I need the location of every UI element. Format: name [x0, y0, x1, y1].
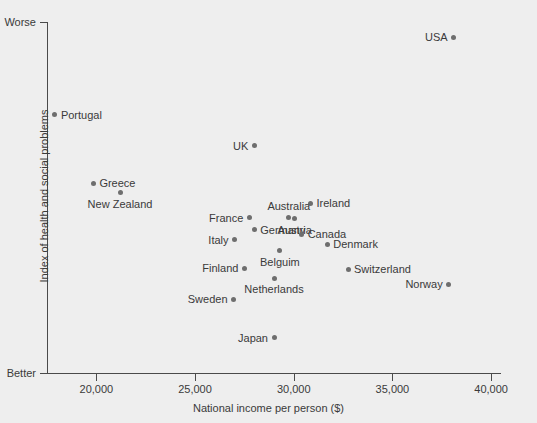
data-point-marker: [299, 232, 304, 237]
y-axis-tick: [40, 22, 47, 23]
data-point-marker: [277, 248, 282, 253]
data-point-label: Norway: [405, 279, 442, 290]
data-point-label: France: [209, 213, 243, 224]
data-point-marker: [231, 297, 236, 302]
data-point-label: New Zealand: [88, 199, 153, 210]
data-point-marker: [232, 237, 237, 242]
data-point-label: Australia: [267, 201, 310, 212]
x-axis-tick-label: 25,000: [178, 383, 212, 395]
data-point-marker: [451, 35, 456, 40]
x-axis-tick: [96, 374, 97, 381]
x-axis-tick-label: 30,000: [277, 383, 311, 395]
x-axis-title: National income per person ($): [0, 402, 537, 414]
data-point-marker: [286, 215, 291, 220]
y-axis-title: Index of health and social problems: [38, 76, 50, 316]
data-point-label: Switzerland: [354, 264, 411, 275]
data-point-marker: [52, 112, 57, 117]
data-point-label: Belguim: [260, 257, 300, 268]
x-axis-tick-label: 20,000: [80, 383, 114, 395]
data-point-label: UK: [233, 141, 248, 152]
data-point-label: Greece: [99, 178, 135, 189]
data-point-marker: [242, 266, 247, 271]
data-point-label: Portugal: [61, 110, 102, 121]
data-point-label: Italy: [208, 235, 228, 246]
data-point-marker: [118, 190, 123, 195]
data-point-marker: [252, 143, 257, 148]
x-axis-tick-label: 40,000: [474, 383, 508, 395]
x-axis-tick: [195, 374, 196, 381]
x-axis-line: [47, 373, 501, 374]
y-axis-tick: [40, 373, 47, 374]
data-point-marker: [272, 335, 277, 340]
y-axis-better-label: Better: [7, 368, 36, 379]
data-point-marker: [91, 181, 96, 186]
x-axis-tick-label: 35,000: [376, 383, 410, 395]
data-point-label: Finland: [202, 263, 238, 274]
data-point-marker: [292, 216, 297, 221]
data-point-marker: [272, 276, 277, 281]
scatter-chart: Worse Better Index of health and social …: [0, 0, 537, 423]
data-point-label: Japan: [238, 333, 268, 344]
data-point-label: USA: [425, 32, 448, 43]
data-point-marker: [247, 215, 252, 220]
x-axis-tick: [491, 374, 492, 381]
data-point-marker: [325, 242, 330, 247]
data-point-marker: [252, 227, 257, 232]
data-point-label: Netherlands: [244, 284, 303, 295]
y-axis-worse-label: Worse: [4, 17, 36, 28]
x-axis-tick: [294, 374, 295, 381]
data-point-label: Sweden: [188, 294, 228, 305]
data-point-marker: [346, 267, 351, 272]
data-point-label: Denmark: [333, 239, 378, 250]
data-point-marker: [446, 282, 451, 287]
data-point-label: Ireland: [317, 198, 351, 209]
x-axis-tick: [392, 374, 393, 381]
